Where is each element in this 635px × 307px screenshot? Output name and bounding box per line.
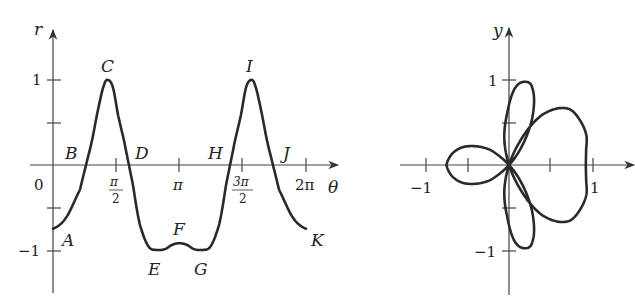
y-axis-label: y <box>492 20 503 40</box>
point-label-H: H <box>207 143 224 163</box>
origin-label: 0 <box>34 176 44 194</box>
point-label-K: K <box>310 230 325 250</box>
point-label-I: I <box>245 56 253 76</box>
point-label-C: C <box>101 56 114 76</box>
point-label-E: E <box>147 259 161 279</box>
point-label-G: G <box>194 259 208 279</box>
tick-label-2pi: 2π <box>295 176 315 194</box>
cartesian-chart: r θ 0 1 −1 π 2 π 3π 2 2π A B C D E F G H… <box>18 19 338 293</box>
figure: r θ 0 1 −1 π 2 π 3π 2 2π A B C D E F G H… <box>0 0 635 307</box>
y-tick-label-neg1: −1 <box>474 243 496 261</box>
point-label-F: F <box>172 219 186 239</box>
tick-label-pi-half-den: 2 <box>112 192 120 206</box>
point-label-J: J <box>280 143 291 163</box>
x-tick-label-1: 1 <box>590 179 600 197</box>
point-label-A: A <box>60 230 74 250</box>
x-tick-label-neg1: −1 <box>410 179 432 197</box>
polar-chart: y −1 1 1 −1 <box>400 20 634 295</box>
r-axis-label: r <box>34 19 43 39</box>
theta-axis-label: θ <box>328 177 338 197</box>
r-tick-label-neg1: −1 <box>18 242 40 260</box>
tick-label-pi-half-num: π <box>109 175 119 189</box>
tick-label-pi: π <box>172 176 184 194</box>
tick-label-3pi-half-den: 2 <box>239 192 247 206</box>
point-label-D: D <box>134 143 149 163</box>
r-tick-label-1: 1 <box>32 71 42 89</box>
tick-label-3pi-half-num: 3π <box>233 175 250 189</box>
point-label-B: B <box>64 143 78 163</box>
y-tick-label-1: 1 <box>488 72 498 90</box>
